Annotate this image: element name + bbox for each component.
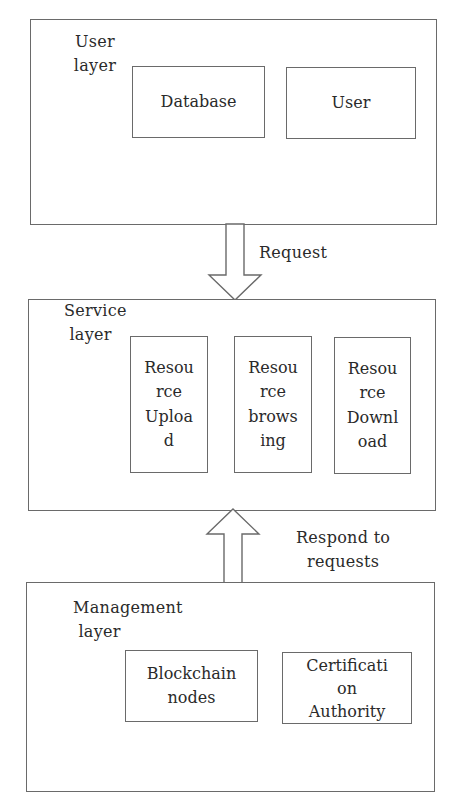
- respond-edge-label: Respond to requests: [296, 526, 390, 574]
- certification-authority-label: Certificati on Authority: [306, 654, 388, 723]
- request-arrow-icon: [205, 224, 265, 304]
- blockchain-nodes-component: Blockchain nodes: [125, 650, 258, 722]
- resource-download-label: Resou rce Downl oad: [347, 357, 399, 455]
- resource-upload-component: Resou rce Uploa d: [130, 336, 208, 473]
- service-layer-label: Service layer: [64, 299, 127, 347]
- resource-download-component: Resou rce Downl oad: [334, 337, 411, 474]
- database-label: Database: [161, 90, 237, 115]
- certification-authority-component: Certificati on Authority: [282, 652, 412, 724]
- management-layer-label: Management layer: [73, 596, 183, 644]
- blockchain-nodes-label: Blockchain nodes: [147, 662, 236, 711]
- user-component: User: [286, 67, 416, 139]
- database-component: Database: [132, 66, 265, 138]
- user-label: User: [332, 91, 371, 116]
- request-edge-label: Request: [259, 241, 327, 265]
- resource-browsing-label: Resou rce brows ing: [248, 356, 298, 454]
- respond-arrow-icon: [203, 509, 263, 589]
- user-layer-label: User layer: [68, 30, 122, 78]
- resource-browsing-component: Resou rce brows ing: [234, 336, 312, 473]
- resource-upload-label: Resou rce Uploa d: [144, 356, 194, 454]
